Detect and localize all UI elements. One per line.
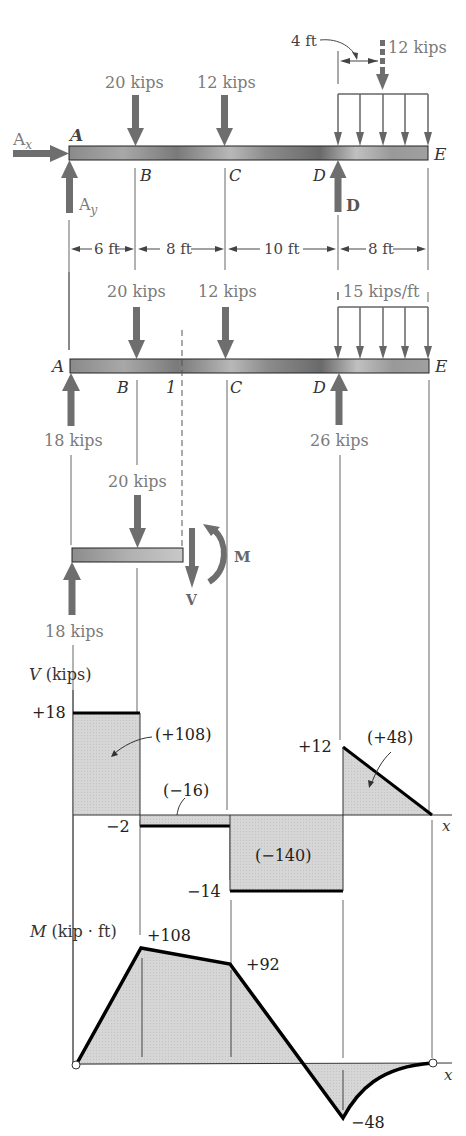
free-body-load-label: 20 kips (108, 472, 167, 491)
section-1-label: 1 (166, 378, 176, 397)
distributed-load-1 (338, 94, 428, 138)
moment-value-d: −48 (351, 1113, 385, 1132)
moment-x-label: x (444, 1066, 453, 1084)
point-a2-label: A (50, 356, 64, 376)
load-c2-label: 12 kips (198, 282, 257, 301)
beam-1 (69, 146, 428, 160)
resultant-load-label: 12 kips (388, 38, 447, 57)
reaction-d2-label: 26 kips (310, 431, 369, 450)
shear-area-de-label: (+48) (367, 728, 413, 747)
moment-endpoint-e (429, 1059, 437, 1067)
free-body-load-arrow (129, 495, 146, 548)
free-body-reaction-label: 18 kips (45, 622, 104, 641)
point-d-label: D (312, 166, 326, 185)
point-c2-label: C (230, 378, 242, 397)
shear-area-ab (73, 713, 140, 815)
point-c-label: C (229, 166, 241, 185)
shear-area-bc (140, 815, 230, 826)
load-b-label: 20 kips (105, 73, 164, 92)
moment-endpoint-a (72, 1061, 80, 1069)
moment-m-arc (209, 530, 224, 582)
dim-ab-label: 6 ft (94, 240, 120, 258)
shear-area-cd-label: (−140) (255, 846, 311, 865)
load-arrow-b2 (128, 307, 145, 359)
reaction-ay-arrow (61, 160, 78, 213)
reaction-ax-label: Ax (12, 129, 32, 152)
free-body-group: 20 kips 18 kips V M (45, 472, 251, 641)
dim-bc-label: 8 ft (166, 240, 192, 258)
moment-value-b: +108 (147, 926, 191, 945)
shear-value-d: +12 (298, 737, 332, 756)
beam-2-group: 15 kips/ft 20 kips 12 kips A E B 1 C D 1… (44, 282, 448, 548)
reaction-d2-arrow (330, 373, 348, 425)
distributed-load-2 (338, 292, 428, 352)
leader-bc (177, 798, 185, 815)
moment-m-label: M (234, 548, 251, 566)
shear-v-arrow (185, 528, 199, 588)
free-body-reaction-arrow (63, 562, 81, 615)
offset-4ft-label: 4 ft (291, 32, 317, 50)
point-d2-label: D (312, 378, 326, 397)
distributed-load-2-heads (334, 346, 432, 359)
distributed-load-label: 15 kips/ft (343, 282, 420, 301)
leader-arrowhead (352, 52, 358, 60)
shear-area-ab-label: (+108) (155, 725, 211, 744)
beam-2 (70, 359, 429, 373)
load-arrow-b (127, 95, 144, 146)
point-a-label: A (68, 125, 83, 145)
reaction-a2-arrow (62, 373, 80, 426)
load-b2-label: 20 kips (107, 282, 166, 301)
point-e2-label: E (434, 356, 448, 376)
dim-arrowhead (340, 58, 350, 64)
load-c-label: 12 kips (197, 73, 256, 92)
beam-analysis-figure: 12 kips 4 ft 20 kips 12 kips Ax A E (0, 0, 466, 1136)
point-b-label: B (139, 166, 152, 185)
shear-v-label: V (185, 592, 198, 608)
shear-axis-label: V (kips) (29, 665, 91, 684)
distributed-load-1-heads (334, 132, 432, 146)
shear-value-c: −14 (187, 882, 221, 901)
reaction-a2-label: 18 kips (44, 431, 103, 450)
beam-1-group: 12 kips 4 ft 20 kips 12 kips Ax A E (12, 32, 447, 258)
free-body-beam (72, 548, 183, 562)
shear-area-bc-label: (−16) (163, 781, 209, 800)
point-b2-label: B (116, 378, 129, 397)
point-e-label: E (433, 144, 447, 164)
moment-value-c: +92 (246, 955, 280, 974)
dim-de-label: 8 ft (368, 240, 394, 258)
reaction-d-arrow (330, 160, 347, 212)
shear-value-b: −2 (106, 817, 130, 836)
shear-value-a: +18 (32, 703, 66, 722)
dim-cd-label: 10 ft (264, 240, 299, 258)
reaction-d-label: D (346, 196, 360, 215)
shear-x-label: x (442, 817, 451, 835)
reaction-ay-label: Ay (78, 195, 98, 217)
moment-axis-label: M (kip · ft) (29, 922, 117, 941)
load-arrow-c2 (217, 307, 234, 359)
dim-arrowhead (368, 58, 378, 64)
load-arrow-c (216, 95, 233, 146)
